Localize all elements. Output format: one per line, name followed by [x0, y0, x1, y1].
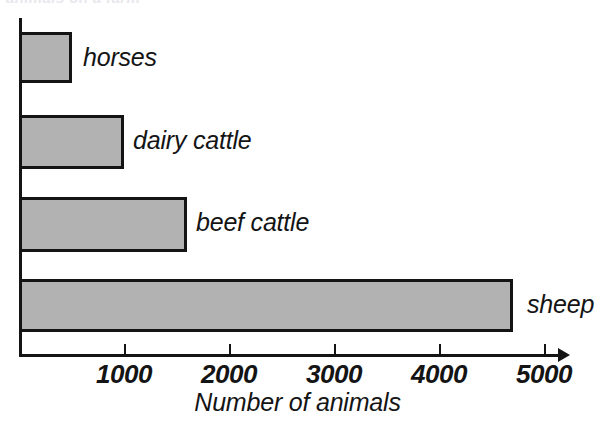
x-tick-1000 — [124, 344, 126, 355]
x-tick-5000 — [544, 344, 546, 355]
bar-label-dairy-cattle: dairy cattle — [133, 126, 252, 155]
x-tick-3000 — [334, 344, 336, 355]
x-tick-2000 — [229, 344, 231, 355]
bar-label-horses: horses — [83, 43, 157, 72]
bar-label-sheep: sheep — [527, 290, 594, 319]
x-axis-title-label: Number of animals — [194, 388, 400, 416]
x-tick-label-4000: 4000 — [411, 359, 467, 390]
bar-chart-figure: animals on a farm horsesdairy cattlebeef… — [0, 0, 611, 426]
clipped-heading-text: animals on a farm — [6, 0, 140, 6]
x-tick-label-1000: 1000 — [96, 359, 152, 390]
bar-beef-cattle — [19, 197, 187, 252]
x-tick-label-2000: 2000 — [201, 359, 257, 390]
x-axis-line — [19, 354, 565, 357]
x-tick-label-5000: 5000 — [516, 359, 572, 390]
x-axis-title: Number of animals — [0, 388, 611, 417]
bar-horses — [19, 32, 72, 83]
bar-sheep — [19, 279, 513, 332]
x-tick-label-3000: 3000 — [306, 359, 362, 390]
x-tick-4000 — [439, 344, 441, 355]
bar-dairy-cattle — [19, 115, 124, 169]
bar-label-beef-cattle: beef cattle — [196, 208, 309, 237]
